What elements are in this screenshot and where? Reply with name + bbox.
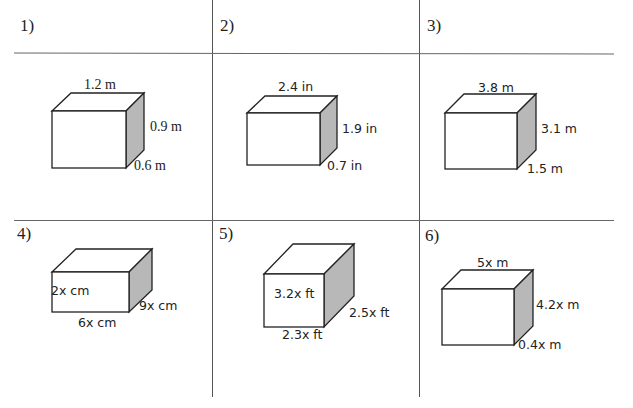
worksheet: 1) 1.2 m 0.9 m 0.6 m 2) 2.4 in 1.9 in 0.… (0, 0, 633, 408)
length-label: 5x m (477, 255, 509, 270)
height-label: 4.2x m (536, 297, 579, 312)
width-label: 0.4x m (518, 337, 561, 352)
